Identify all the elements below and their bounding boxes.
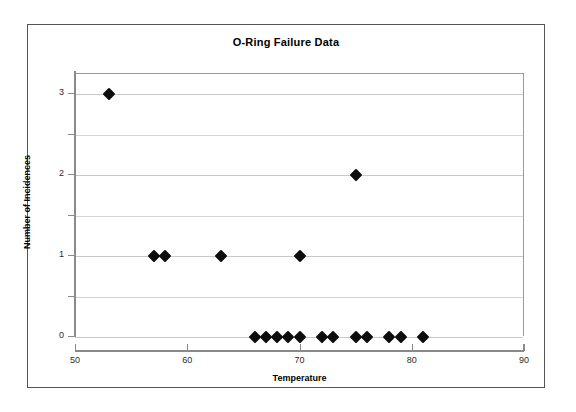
x-tick-80 [412, 344, 413, 351]
y-tick-label-3: 3 [40, 87, 64, 97]
chart-figure: O-Ring Failure Data 0123 5060708090 Temp… [0, 0, 576, 412]
x-tick-label-60: 60 [172, 355, 202, 365]
x-axis-title: Temperature [75, 373, 524, 383]
gridline-y-0.5 [75, 297, 523, 298]
gridline-y-2 [75, 175, 523, 176]
x-tick-label-90: 90 [509, 355, 539, 365]
x-tick-90 [524, 344, 525, 351]
data-point [215, 250, 228, 263]
y-tick-0.5 [68, 296, 75, 297]
x-tick-70 [300, 344, 301, 351]
gridline-y-1.5 [75, 216, 523, 217]
y-tick-3 [68, 93, 75, 94]
y-tick-1.5 [68, 215, 75, 216]
y-tick-label-2: 2 [40, 168, 64, 178]
y-tick-0 [68, 336, 75, 337]
y-tick-label-0: 0 [40, 330, 64, 340]
x-tick-label-70: 70 [285, 355, 315, 365]
plot-area [75, 73, 524, 336]
chart-title: O-Ring Failure Data [27, 36, 545, 48]
y-axis-title: Number of Incidences [22, 142, 32, 262]
data-point [349, 169, 362, 182]
gridline-y-2.5 [75, 135, 523, 136]
y-tick-2 [68, 174, 75, 175]
gridline-y-3 [75, 94, 523, 95]
y-tick-label-1: 1 [40, 249, 64, 259]
x-tick-50 [75, 344, 76, 351]
x-tick-label-50: 50 [60, 355, 90, 365]
data-point [158, 250, 171, 263]
y-tick-1 [68, 255, 75, 256]
x-tick-label-80: 80 [397, 355, 427, 365]
data-point [293, 250, 306, 263]
y-tick-2.5 [68, 134, 75, 135]
data-point [102, 88, 115, 101]
x-tick-60 [187, 344, 188, 351]
y-axis-line [74, 71, 76, 337]
